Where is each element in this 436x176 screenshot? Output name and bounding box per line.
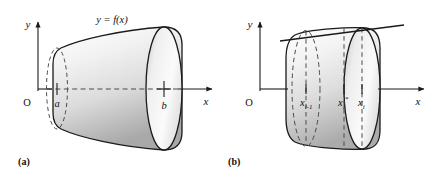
tick-label-x-i-star-sup: * <box>345 95 349 103</box>
origin-label-b: O <box>245 97 253 108</box>
y-axis-label-a: y <box>25 18 31 30</box>
origin-label-a: O <box>23 97 31 108</box>
curve-label-fx: y = f(x) <box>95 14 128 26</box>
panel-b: y x O xi-1 xi* xi <box>218 0 436 176</box>
x-axis-label-b: x <box>415 95 421 107</box>
y-axis-label-b: y <box>247 18 253 30</box>
tick-label-b: b <box>161 100 166 111</box>
caption-panel-b: (b) <box>228 156 241 167</box>
x-axis-label-a: x <box>203 95 209 107</box>
caption-panel-a: (a) <box>18 156 30 167</box>
figure-container: y x O a b y = f(x) <box>0 0 436 176</box>
tick-label-x-i-star-sub: i <box>343 103 345 111</box>
tick-label-x-i-sub: i <box>363 103 365 111</box>
panel-a: y x O a b y = f(x) <box>0 0 218 176</box>
tick-label-x-i-minus-1-sub: i-1 <box>305 103 313 111</box>
tick-label-a: a <box>54 98 59 109</box>
